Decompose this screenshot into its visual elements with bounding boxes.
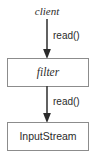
arrow-filter-to-inputstream bbox=[40, 86, 54, 123]
node-client-label: client bbox=[0, 6, 94, 17]
edge-label-read-1: read() bbox=[53, 31, 80, 41]
node-filter-label: filter bbox=[37, 67, 59, 79]
node-filter-box: filter bbox=[7, 58, 89, 87]
node-inputstream-box: InputStream bbox=[7, 122, 89, 151]
node-inputstream-label: InputStream bbox=[19, 131, 76, 142]
diagram-canvas: client read() filter read() InputStream bbox=[0, 0, 97, 155]
arrow-client-to-filter bbox=[40, 19, 54, 59]
edge-label-read-2: read() bbox=[53, 97, 80, 107]
